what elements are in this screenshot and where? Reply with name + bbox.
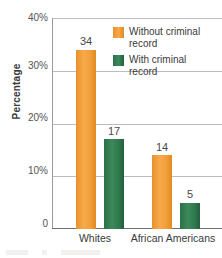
bar-african-americans-without-criminal-record[interactable] <box>152 155 172 229</box>
legend: Without criminal record With criminal re… <box>113 26 213 77</box>
y-tick-label-20: 20% <box>14 113 48 123</box>
bar-chart: Percentage 40% 30% 20% 10% 0 34 17 14 5 … <box>0 0 222 258</box>
bar-label-african-americans-without-criminal-record: 14 <box>142 142 182 153</box>
bar-whites-with-criminal-record[interactable] <box>104 139 124 229</box>
legend-item-without-criminal-record[interactable]: Without criminal record <box>113 26 213 49</box>
bar-african-americans-with-criminal-record[interactable] <box>180 203 200 229</box>
y-axis-tick-labels: 40% 30% 20% 10% 0 <box>12 0 48 258</box>
legend-swatch-orange-icon <box>113 27 124 38</box>
y-tick-label-30: 30% <box>14 61 48 71</box>
x-axis-label-whites: Whites <box>60 232 130 244</box>
legend-label-with-criminal-record: With criminal record <box>129 54 213 77</box>
bar-whites-without-criminal-record[interactable] <box>76 50 96 229</box>
bar-label-african-americans-with-criminal-record: 5 <box>170 189 210 200</box>
bar-label-whites-with-criminal-record: 17 <box>94 126 134 137</box>
page-edge-artifact <box>6 250 126 255</box>
legend-label-without-criminal-record: Without criminal record <box>129 26 213 49</box>
bar-label-whites-without-criminal-record: 34 <box>66 36 106 47</box>
x-axis-label-african-americans: African Americans <box>124 232 222 244</box>
y-tick-label-40: 40% <box>14 13 48 23</box>
legend-swatch-green-icon <box>113 55 124 66</box>
y-tick-label-10: 10% <box>14 166 48 176</box>
y-tick-label-0: 0 <box>14 219 48 229</box>
legend-item-with-criminal-record[interactable]: With criminal record <box>113 54 213 77</box>
